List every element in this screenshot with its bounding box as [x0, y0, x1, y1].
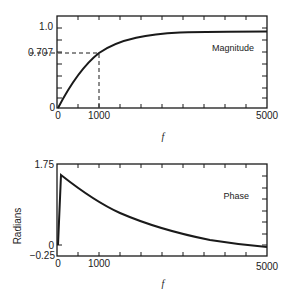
magnitude-x-axis-title: f — [162, 131, 166, 142]
phase-x-axis-title: f — [162, 278, 166, 289]
magnitude-panel-label: Magnitude — [212, 43, 254, 53]
figure: 1.0 0.707 0 0 1000 5000 Magnitude f — [0, 0, 292, 296]
magnitude-ytick-1: 1.0 — [39, 21, 53, 32]
phase-xtick-1000: 1000 — [88, 258, 111, 269]
phase-xtick-0: 0 — [55, 258, 61, 269]
magnitude-right-ticks — [262, 28, 267, 98]
phase-chart: 1.75 0 −0.25 0 1000 5000 Phase Radians f — [12, 159, 279, 289]
phase-y-axis-title: Radians — [12, 208, 23, 245]
phase-right-ticks — [262, 176, 267, 245]
phase-ytick-neg025: −0.25 — [30, 250, 56, 261]
magnitude-ytick-0707: 0.707 — [28, 47, 53, 58]
magnitude-left-ticks — [57, 28, 62, 98]
phase-plot-frame — [57, 164, 267, 256]
magnitude-chart: 1.0 0.707 0 0 1000 5000 Magnitude f — [28, 16, 279, 142]
magnitude-xtick-5000: 5000 — [256, 110, 279, 121]
phase-ytick-175: 1.75 — [35, 159, 55, 170]
phase-curve — [58, 175, 267, 247]
phase-xtick-5000: 5000 — [256, 261, 279, 272]
magnitude-xtick-1000: 1000 — [88, 110, 111, 121]
magnitude-xtick-0: 0 — [55, 110, 61, 121]
phase-panel-label: Phase — [223, 191, 249, 201]
